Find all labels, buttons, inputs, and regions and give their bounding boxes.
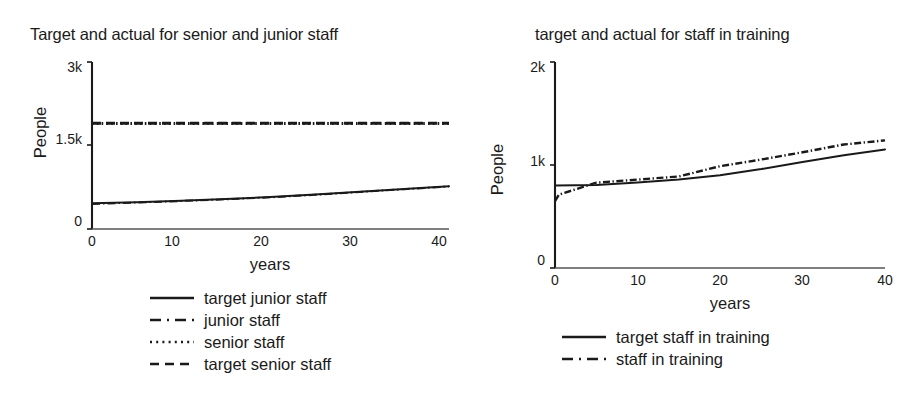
x-tick-left-20: 20 [241,233,281,249]
x-tick-right-10: 10 [618,272,658,288]
legend-label: target junior staff [204,287,327,309]
legend-label: senior staff [204,331,284,353]
y-tick-left-1500: 1.5k [40,131,82,147]
legend-marker-solid [148,287,196,309]
y-axis-label-right: People [488,125,507,215]
chart-title-right: target and actual for staff in training [535,25,789,44]
x-tick-left-10: 10 [152,233,192,249]
y-tick-right-0: 0 [505,252,545,268]
series-line-target-junior-staff [92,186,449,203]
y-tick-right-2k: 2k [505,59,545,75]
y-tick-left-3k: 3k [40,59,82,75]
legend-marker-dashdot [560,348,608,370]
legend-marker-dotted [148,331,196,353]
x-tick-left-0: 0 [72,233,112,249]
legend-label: staff in training [616,348,723,370]
chart-title-left: Target and actual for senior and junior … [30,25,338,44]
x-tick-right-20: 20 [700,272,740,288]
figure-container: Target and actual for senior and junior … [0,0,906,413]
chart-panel-right: target and actual for staff in training … [460,0,906,413]
legend-label: target senior staff [204,353,331,375]
x-tick-left-30: 30 [330,233,370,249]
x-tick-left-40: 40 [419,233,459,249]
plot-area-right [545,58,895,283]
x-tick-right-40: 40 [865,272,905,288]
y-tick-left-0: 0 [40,213,82,229]
legend-marker-dashdot [148,309,196,331]
x-axis-label-right: years [675,294,785,313]
series-line-staff-in-training [555,140,885,201]
legend-marker-dashed [148,353,196,375]
series-line-target-staff-in-training [555,150,885,186]
y-tick-right-1k: 1k [505,153,545,169]
plot-area-left [80,58,465,243]
legend-label: target staff in training [616,326,770,348]
chart-panel-left: Target and actual for senior and junior … [0,0,460,413]
x-axis-label-left: years [215,255,325,274]
x-tick-right-30: 30 [782,272,822,288]
legend-label: junior staff [204,309,280,331]
legend-marker-solid [560,326,608,348]
x-tick-right-0: 0 [535,272,575,288]
